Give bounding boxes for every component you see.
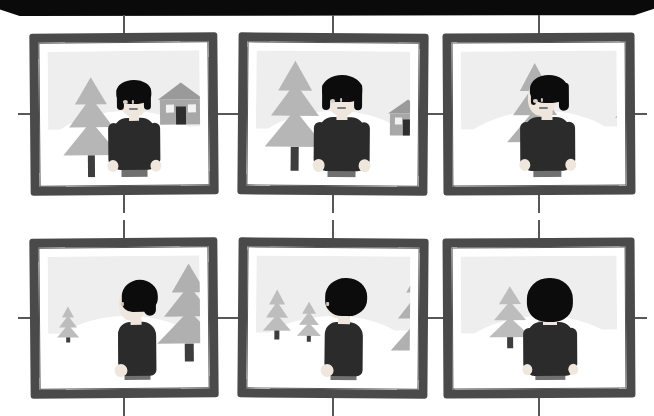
scene-2 [256, 50, 411, 177]
scene-5 [256, 255, 411, 380]
house-door [176, 106, 186, 124]
panel-4[interactable] [30, 238, 218, 398]
scene-3 [461, 51, 618, 178]
house-right-small [390, 99, 411, 135]
tree-large-right [390, 260, 411, 371]
house-window-left [395, 117, 402, 124]
house-window-left [166, 105, 174, 113]
picture-frame [443, 237, 636, 398]
picture-frame [29, 32, 218, 196]
figure-back-quarter [311, 278, 372, 381]
house-right [160, 82, 201, 124]
figure-front [311, 75, 372, 178]
hair-back-of-head [527, 278, 573, 322]
scene-1 [47, 50, 200, 177]
panel-2[interactable] [238, 33, 428, 195]
picture-frame [29, 237, 218, 399]
tree-small-left [56, 306, 80, 342]
figure-three-quarter [517, 75, 578, 178]
panel-1[interactable] [30, 33, 218, 195]
picture-frame [443, 32, 636, 195]
figure-profile [106, 280, 165, 381]
tree-small-left [262, 289, 292, 339]
figure-front [106, 78, 163, 178]
house-door [403, 120, 411, 136]
scene-4 [47, 255, 200, 380]
black-header-band [0, 0, 654, 16]
picture-frame [237, 32, 428, 195]
picture-frame [237, 237, 428, 398]
scene-6 [461, 256, 618, 381]
panel-3[interactable] [443, 33, 635, 195]
panel-6[interactable] [443, 238, 635, 398]
panel-5[interactable] [238, 238, 428, 398]
figure-back [519, 278, 582, 381]
house-window-right [188, 104, 196, 112]
